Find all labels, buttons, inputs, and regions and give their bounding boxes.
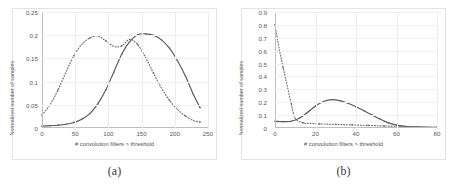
y-tick-label: 0.1 xyxy=(12,78,38,85)
data-point-marker xyxy=(307,112,308,113)
data-point-marker xyxy=(303,122,304,123)
x-tick-label: 150 xyxy=(136,130,146,137)
data-point-marker xyxy=(335,124,336,125)
gridline-horizontal xyxy=(42,12,208,13)
y-tick-label: 0.3 xyxy=(241,86,267,93)
data-point-marker xyxy=(380,119,381,120)
plot-area-b xyxy=(275,12,437,128)
panel-caption-a: (a) xyxy=(0,164,229,179)
data-point-marker xyxy=(363,110,364,111)
data-point-marker xyxy=(367,125,368,126)
data-point-marker xyxy=(185,75,186,76)
data-point-marker xyxy=(161,39,162,40)
gridline-vertical xyxy=(108,12,109,128)
gridline-horizontal xyxy=(42,105,208,106)
gridline-vertical xyxy=(142,12,143,128)
y-tick-label: 0.2 xyxy=(12,32,38,39)
gridline-vertical xyxy=(316,12,317,128)
data-point-marker xyxy=(153,73,154,74)
x-tick-label: 60 xyxy=(393,130,400,137)
gridline-vertical xyxy=(175,12,176,128)
data-point-marker xyxy=(81,118,82,119)
gridline-horizontal xyxy=(42,58,208,59)
data-point-marker xyxy=(89,37,90,38)
data-point-marker xyxy=(137,44,138,45)
y-tick-label: 0.1 xyxy=(241,112,267,119)
data-point-marker xyxy=(185,115,186,116)
series-dotted xyxy=(42,36,200,122)
data-point-marker xyxy=(169,99,170,100)
series-svg-a xyxy=(42,12,208,128)
data-point-marker xyxy=(339,100,340,101)
data-point-marker xyxy=(331,99,332,100)
figure-two-panel-distributions: Normalized number of samples 00.050.10.1… xyxy=(0,0,458,195)
data-point-marker xyxy=(89,113,90,114)
gridline-horizontal xyxy=(42,82,208,83)
x-axis-title-b: # convolution filters > threshold xyxy=(241,141,446,147)
x-tick-label: 100 xyxy=(103,130,113,137)
data-point-marker xyxy=(129,41,130,42)
data-point-marker xyxy=(199,121,200,122)
data-point-marker xyxy=(105,40,106,41)
data-point-marker xyxy=(177,60,178,61)
x-tick-label: 0 xyxy=(273,130,276,137)
x-tick-label: 250 xyxy=(203,130,213,137)
data-point-marker xyxy=(57,89,58,90)
y-tick-label: 0.25 xyxy=(12,9,38,16)
y-axis-line-a xyxy=(42,12,43,128)
gridline-vertical xyxy=(75,12,76,128)
y-tick-label: 0.6 xyxy=(241,47,267,54)
series-solid xyxy=(42,34,200,126)
x-axis-ticks-a: 050100150200250 xyxy=(42,130,208,140)
data-point-marker xyxy=(121,45,122,46)
y-tick-label: 0.2 xyxy=(241,99,267,106)
gridline-horizontal xyxy=(42,35,208,36)
data-point-marker xyxy=(319,123,320,124)
x-tick-label: 20 xyxy=(312,130,319,137)
x-axis-title-a: # convolution filters > threshold xyxy=(12,141,217,147)
data-point-marker xyxy=(388,122,389,123)
y-axis-line-b xyxy=(275,12,276,128)
data-point-marker xyxy=(282,121,283,122)
y-tick-label: 0.9 xyxy=(241,9,267,16)
y-tick-label: 0.8 xyxy=(241,21,267,28)
panel-b: Normalized number of samples 00.10.20.30… xyxy=(229,0,458,195)
x-tick-label: 200 xyxy=(170,130,180,137)
data-point-marker xyxy=(121,54,122,55)
y-axis-ticks-b: 00.10.20.30.40.50.60.70.80.9 xyxy=(241,12,267,128)
panel-a: Normalized number of samples 00.050.10.1… xyxy=(0,0,229,195)
data-point-marker xyxy=(65,124,66,125)
y-tick-label: 0 xyxy=(241,125,267,132)
y-tick-label: 0.15 xyxy=(12,55,38,62)
data-point-marker xyxy=(351,124,352,125)
gridline-vertical xyxy=(397,12,398,128)
data-point-marker xyxy=(169,47,170,48)
y-tick-label: 0.4 xyxy=(241,73,267,80)
data-point-marker xyxy=(57,125,58,126)
x-tick-label: 40 xyxy=(353,130,360,137)
data-point-marker xyxy=(299,118,300,119)
y-tick-label: 0 xyxy=(12,125,38,132)
x-tick-label: 50 xyxy=(72,130,79,137)
plot-area-a xyxy=(42,12,208,128)
data-point-marker xyxy=(282,67,283,68)
gridline-vertical xyxy=(208,12,209,128)
y-axis-ticks-a: 00.050.10.150.20.25 xyxy=(12,12,38,128)
data-point-marker xyxy=(199,107,200,108)
data-point-marker xyxy=(291,121,292,122)
data-point-marker xyxy=(113,72,114,73)
data-point-marker xyxy=(105,89,106,90)
data-point-marker xyxy=(193,94,194,95)
y-tick-label: 0.7 xyxy=(241,34,267,41)
y-tick-label: 0.5 xyxy=(241,60,267,67)
panel-caption-b: (b) xyxy=(229,164,458,179)
x-axis-ticks-b: 020406080 xyxy=(275,130,437,140)
y-tick-label: 0.05 xyxy=(12,101,38,108)
x-tick-label: 0 xyxy=(40,130,43,137)
gridline-vertical xyxy=(356,12,357,128)
x-axis-line-a xyxy=(42,127,208,128)
x-tick-label: 80 xyxy=(434,130,441,137)
gridline-vertical xyxy=(437,12,438,128)
